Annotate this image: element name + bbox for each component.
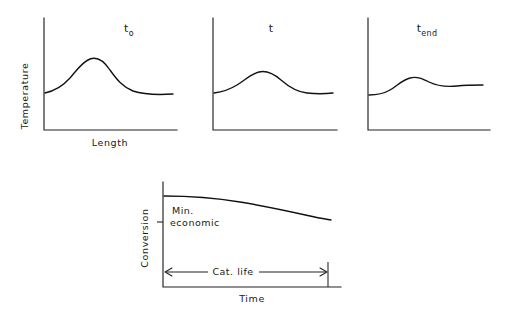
panel-t-title: t — [269, 22, 274, 35]
panel-tend-curve — [369, 77, 483, 95]
panel-conversion-ylabel: Conversion — [139, 208, 150, 267]
panel-t-title-base: t — [269, 22, 274, 35]
panel-t0-title: to — [124, 22, 134, 38]
cat-life-label: Cat. life — [212, 266, 253, 277]
panel-tend: tend — [368, 18, 490, 130]
catalyst-deactivation-figure: Temperature Length to t tend Min. econom… — [0, 0, 513, 322]
panel-t0-ylabel: Temperature — [19, 63, 30, 131]
panel-t0-axes — [44, 18, 177, 130]
min-economic-label-line2: economic — [170, 217, 220, 228]
panel-t0-curve — [45, 58, 173, 94]
panel-t-curve — [214, 71, 333, 93]
panel-conversion: Min. economic Cat. life Conversion Time — [139, 182, 341, 304]
panel-t-axes — [213, 18, 337, 130]
cat-life-arrow: Cat. life — [165, 262, 328, 287]
min-economic-label-line1: Min. — [172, 205, 194, 216]
panel-t0-title-subscript: o — [129, 29, 134, 38]
panel-t0-xlabel: Length — [92, 137, 128, 148]
panel-t: t — [213, 18, 337, 130]
panel-conversion-xlabel: Time — [238, 293, 265, 304]
panel-tend-title-subscript: end — [421, 29, 437, 38]
panel-t0: Temperature Length to — [19, 18, 177, 148]
panel-tend-title: tend — [417, 22, 438, 38]
